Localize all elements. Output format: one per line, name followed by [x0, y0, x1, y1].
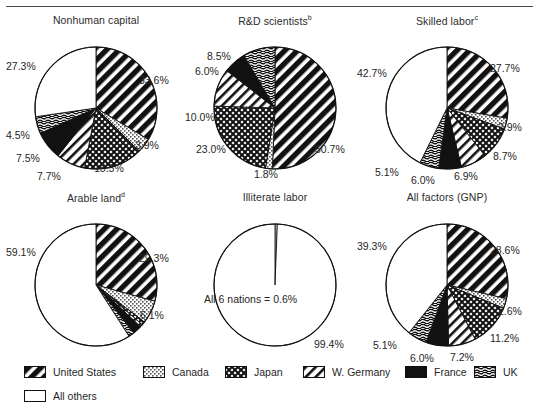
title-footnote-marker: b: [308, 14, 312, 21]
pie-wrap: 33.6%3.9%15.5%7.7%7.5%4.5%27.3%: [6, 32, 186, 187]
pie-wrap: 28.6%2.6%11.2%7.2%6.0%5.1%39.3%: [357, 209, 537, 364]
legend-swatch: [405, 366, 427, 378]
legend-label: United States: [53, 366, 116, 378]
slice-value-label: 1.8%: [254, 169, 278, 180]
legend-item-all-others[interactable]: All others: [24, 390, 97, 402]
chart-illiterate-labor: Illiterate labor99.4%All 6 nations = 0.6…: [185, 191, 365, 366]
legend-swatch: [143, 366, 165, 378]
pie-slice: [35, 47, 96, 117]
pie-chart: [6, 209, 186, 364]
chart-nonhuman-capital: Nonhuman capital33.6%3.9%15.5%7.7%7.5%4.…: [6, 14, 186, 189]
chart-arable-land: Arable landd29.3%6.1%59.1%: [6, 191, 186, 366]
slice-value-label: 28.6%: [490, 245, 520, 256]
slice-value-label: 6.1%: [140, 310, 164, 321]
slice-value-label: 39.3%: [357, 241, 387, 252]
chart-title: All factors (GNP): [357, 191, 537, 203]
slice-value-label: 7.7%: [37, 171, 61, 182]
chart-title: Skilled laborc: [357, 14, 537, 27]
slice-value-label: 6.0%: [195, 66, 219, 77]
slice-value-label: 6.0%: [411, 175, 435, 186]
slice-value-label: 6.9%: [454, 171, 478, 182]
legend-label: UK: [503, 366, 518, 378]
pie-slice: [214, 106, 275, 168]
slice-value-label: 8.7%: [493, 151, 517, 162]
chart-rd-scientists: R&D scientistsb50.7%1.8%23.0%10.0%6.0%8.…: [185, 14, 365, 189]
legend-item-w-germany[interactable]: W. Germany: [303, 366, 390, 378]
legend-label: W. Germany: [332, 366, 390, 378]
legend-item-united-states[interactable]: United States: [24, 366, 116, 378]
slice-value-label: 3.9%: [135, 140, 159, 151]
pie-slice: [447, 47, 508, 118]
slice-value-label: 23.0%: [196, 144, 226, 155]
chart-all-factors-gnp: All factors (GNP)28.6%2.6%11.2%7.2%6.0%5…: [357, 191, 537, 366]
pie-slice: [214, 224, 336, 346]
pie-wrap: 27.7%2.9%8.7%6.9%6.0%5.1%42.7%: [357, 32, 537, 187]
legend: United StatesCanadaJapanW. GermanyFrance…: [0, 358, 539, 408]
slice-value-label: 8.5%: [207, 51, 231, 62]
pie-wrap: 29.3%6.1%59.1%: [6, 209, 186, 364]
slice-value-label: 2.9%: [498, 122, 522, 133]
slice-value-label: 27.7%: [490, 63, 520, 74]
legend-item-france[interactable]: France: [405, 366, 467, 378]
slice-value-label: 7.5%: [16, 153, 40, 164]
legend-label: Japan: [254, 366, 283, 378]
slice-value-label: 4.5%: [6, 130, 30, 141]
slice-value-label: 5.1%: [373, 340, 397, 351]
slice-value-label: 33.6%: [139, 75, 169, 86]
legend-swatch: [24, 366, 46, 378]
slice-value-label: 27.3%: [6, 61, 36, 72]
pie-wrap: 50.7%1.8%23.0%10.0%6.0%8.5%: [185, 32, 365, 187]
slice-value-label: 2.6%: [498, 306, 522, 317]
slice-value-label: 10.0%: [185, 112, 215, 123]
legend-swatch: [24, 390, 46, 402]
center-note: All 6 nations = 0.6%: [204, 293, 297, 305]
legend-swatch: [474, 366, 496, 378]
slice-value-label: 59.1%: [6, 247, 36, 258]
legend-swatch: [225, 366, 247, 378]
slice-value-label: 50.7%: [315, 144, 345, 155]
title-footnote-marker: d: [121, 191, 125, 198]
legend-item-uk[interactable]: UK: [474, 366, 518, 378]
title-footnote-marker: c: [474, 14, 478, 21]
legend-label: France: [434, 366, 467, 378]
chart-skilled-labor: Skilled laborc27.7%2.9%8.7%6.9%6.0%5.1%4…: [357, 14, 537, 189]
legend-label: All others: [53, 390, 97, 402]
pie-wrap: 99.4%All 6 nations = 0.6%: [185, 209, 365, 364]
slice-value-label: 5.1%: [375, 167, 399, 178]
legend-swatch: [303, 366, 325, 378]
chart-title: Nonhuman capital: [6, 14, 186, 26]
chart-title: R&D scientistsb: [185, 14, 365, 27]
slice-value-label: 15.5%: [94, 163, 124, 174]
pie-chart: [357, 32, 537, 187]
slice-value-label: 99.4%: [314, 339, 344, 350]
top-rule: [6, 6, 533, 7]
chart-title: Arable landd: [6, 191, 186, 204]
chart-title: Illiterate labor: [185, 191, 365, 203]
legend-item-canada[interactable]: Canada: [143, 366, 209, 378]
slice-value-label: 42.7%: [357, 68, 387, 79]
slice-value-label: 29.3%: [139, 253, 169, 264]
legend-label: Canada: [172, 366, 209, 378]
slice-value-label: 11.2%: [490, 333, 519, 344]
legend-item-japan[interactable]: Japan: [225, 366, 283, 378]
